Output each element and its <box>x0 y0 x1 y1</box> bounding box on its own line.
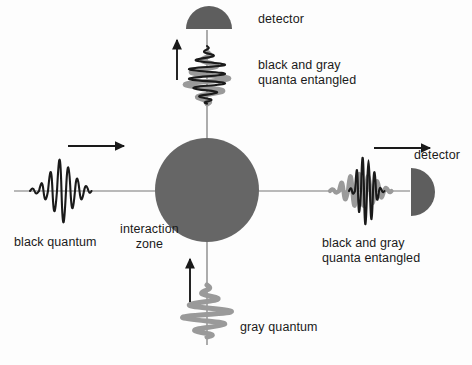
entangled-packet-right <box>330 158 392 225</box>
label-black-quantum: black quantum <box>14 235 97 250</box>
label-interaction-zone: interaction zone <box>120 222 179 252</box>
label-detector-top: detector <box>258 12 304 27</box>
quantum-entanglement-diagram: detector black and gray quanta entangled… <box>0 0 472 365</box>
detector-top-icon <box>186 6 232 29</box>
diagram-canvas <box>0 0 472 365</box>
label-gray-quantum: gray quantum <box>240 320 318 335</box>
label-entangled-right: black and gray quanta entangled <box>322 236 420 266</box>
detector-right-icon <box>411 168 435 216</box>
label-detector-right: detector <box>414 148 460 163</box>
entangled-packet-top <box>185 46 229 104</box>
label-entangled-top: black and gray quanta entangled <box>258 58 356 88</box>
